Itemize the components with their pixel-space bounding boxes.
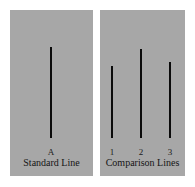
comparison-lines-panel: 1 2 3 Comparison Lines [100,10,185,176]
comparison-line-1 [111,66,113,138]
comparison-line-2 [140,49,142,138]
comparison-line-3 [169,62,171,138]
standard-line-caption: Standard Line [10,157,93,169]
standard-line-panel: A Standard Line [10,10,93,176]
comparison-lines-caption: Comparison Lines [100,157,185,169]
standard-line-a [50,47,52,138]
line-label-1: 1 [105,147,119,157]
line-label-a: A [44,147,58,157]
line-label-3: 3 [163,147,177,157]
line-label-2: 2 [134,147,148,157]
